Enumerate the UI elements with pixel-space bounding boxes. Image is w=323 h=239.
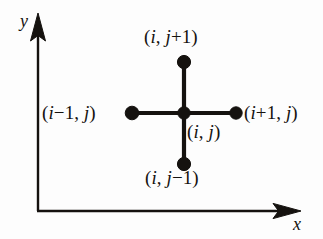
x-axis-label: x xyxy=(293,215,301,233)
node-center-dot xyxy=(178,107,190,119)
node-east-dot xyxy=(230,107,242,119)
y-axis-label: y xyxy=(20,12,28,30)
node-north-dot xyxy=(177,55,190,68)
node-east-label: (i+1, j) xyxy=(244,103,298,122)
node-west-dot xyxy=(125,106,139,120)
node-center-label: (i, j) xyxy=(187,122,220,141)
node-west-label: (i−1, j) xyxy=(42,103,96,122)
stencil-diagram: (i, j+1) (i−1, j) (i+1, j) (i, j) (i, j−… xyxy=(0,0,323,239)
node-north-label: (i, j+1) xyxy=(144,27,198,46)
node-south-label: (i, j−1) xyxy=(145,168,199,187)
stencil-group xyxy=(125,55,242,170)
